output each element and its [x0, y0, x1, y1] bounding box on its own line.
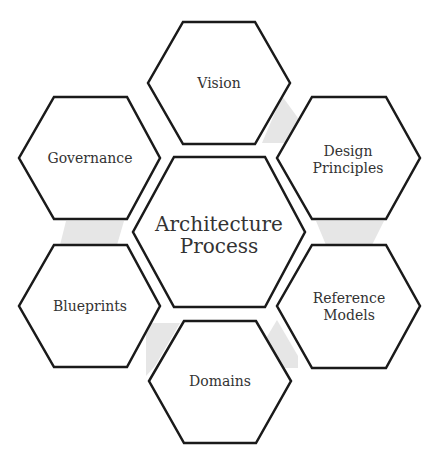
label-blueprints: Blueprints [53, 298, 127, 314]
label-reference-line1: Reference [313, 290, 385, 306]
label-center-line1: Architecture [154, 212, 283, 236]
label-reference-line2: Models [323, 307, 375, 323]
connector-blueprints-governance [60, 221, 124, 245]
label-center-line2: Process [180, 234, 259, 258]
architecture-process-diagram: Vision Design Principles Reference Model… [0, 0, 438, 459]
label-design-line2: Principles [313, 160, 384, 176]
connector-design-reference [316, 221, 384, 245]
label-governance: Governance [47, 150, 132, 166]
label-design-line1: Design [323, 143, 372, 159]
label-vision: Vision [196, 75, 240, 91]
label-domains: Domains [189, 373, 251, 389]
